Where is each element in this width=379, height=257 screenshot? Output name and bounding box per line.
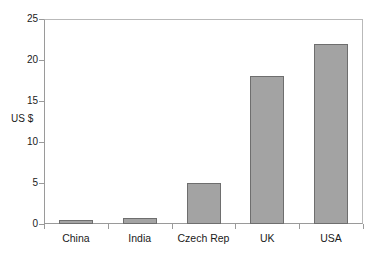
bar — [59, 220, 93, 224]
y-tick-mark — [39, 183, 44, 184]
x-tick-label: India — [108, 232, 172, 244]
y-tick-label: 5 — [32, 178, 38, 188]
bar — [250, 76, 284, 224]
bar — [123, 218, 157, 224]
y-axis-title: US $ — [11, 113, 33, 124]
y-tick-label: 25 — [27, 14, 38, 24]
x-tick-label: China — [44, 232, 108, 244]
y-tick-label: 20 — [27, 55, 38, 65]
x-tick-mark — [299, 224, 300, 229]
y-tick-label: 10 — [27, 137, 38, 147]
y-tick-label: 0 — [32, 219, 38, 229]
y-tick-mark — [39, 60, 44, 61]
x-tick-label: Czech Rep — [172, 232, 236, 244]
y-tick-mark — [39, 19, 44, 20]
x-tick-mark — [172, 224, 173, 229]
y-tick-mark — [39, 142, 44, 143]
bar-chart: US $ 0510152025 ChinaIndiaCzech RepUKUSA — [0, 0, 379, 257]
bar — [314, 44, 348, 224]
x-tick-label: USA — [299, 232, 363, 244]
x-tick-mark — [363, 224, 364, 229]
x-tick-label: UK — [235, 232, 299, 244]
x-tick-mark — [44, 224, 45, 229]
y-tick-label: 15 — [27, 96, 38, 106]
y-tick-mark — [39, 101, 44, 102]
x-tick-mark — [108, 224, 109, 229]
x-tick-mark — [235, 224, 236, 229]
bar — [187, 183, 221, 224]
